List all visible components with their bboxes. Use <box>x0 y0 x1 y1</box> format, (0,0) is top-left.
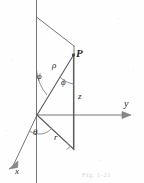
plane-top-edge <box>37 17 75 46</box>
label-point-p: P <box>76 48 83 59</box>
label-height-z: z <box>78 92 82 101</box>
label-angle-phi-right: ϕ <box>61 78 66 87</box>
scan-speck <box>118 18 119 19</box>
scan-speck <box>133 70 134 71</box>
figure-caption-fragment: Fig. 1-21 <box>82 171 111 179</box>
x-axis-group <box>9 115 37 169</box>
scan-speck <box>6 130 7 131</box>
vertical-plane-outline <box>37 0 75 183</box>
y-axis-arrowhead <box>122 112 131 119</box>
label-radius-rho: ρ <box>52 61 56 70</box>
label-axis-x: x <box>15 167 19 176</box>
figure-canvas: P y x z ρ r θ ϕ ϕ Fig. 1-21 <box>0 0 144 183</box>
label-angle-theta: θ <box>33 128 37 137</box>
coordinate-diagram <box>0 0 144 183</box>
label-axis-y: y <box>124 99 128 109</box>
point-P-marker <box>72 53 75 56</box>
label-angle-phi-left: ϕ <box>37 72 42 81</box>
scan-speck <box>12 60 13 61</box>
y-axis-group <box>37 112 131 119</box>
x-axis-line <box>13 115 37 166</box>
scan-speck <box>100 160 101 161</box>
right-angle-marker <box>66 142 71 150</box>
label-radius-r: r <box>54 133 58 142</box>
